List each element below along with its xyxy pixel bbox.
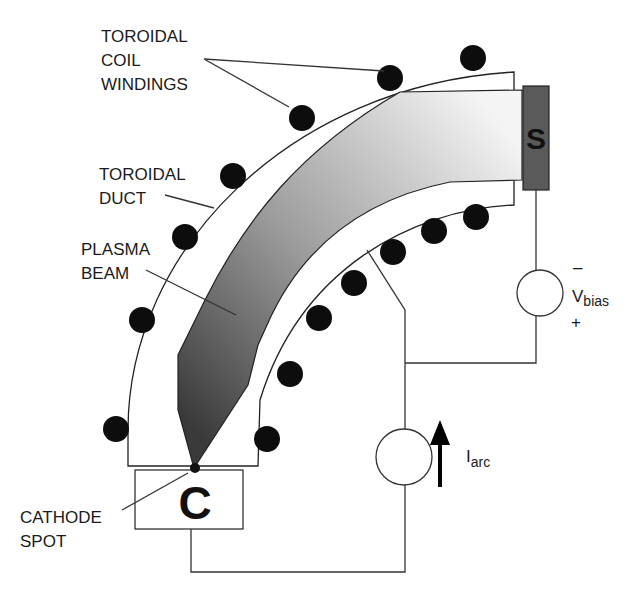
arc-current-arrow-icon bbox=[430, 420, 450, 487]
coil-winding bbox=[460, 45, 486, 71]
label-coil-windings-3: WINDINGS bbox=[101, 75, 188, 94]
coil-winding bbox=[254, 426, 280, 452]
bias-voltage-source bbox=[517, 270, 563, 316]
arc-current-source bbox=[376, 429, 432, 485]
coil-winding bbox=[377, 65, 403, 91]
bias-plus-sign: + bbox=[571, 313, 581, 332]
coil-winding bbox=[220, 163, 246, 189]
label-duct-1: TOROIDAL bbox=[99, 165, 186, 184]
coil-winding bbox=[289, 105, 315, 131]
coil-winding bbox=[103, 416, 129, 442]
coil-winding bbox=[463, 204, 489, 230]
callout-coil-windings: TOROIDAL COIL WINDINGS bbox=[101, 27, 384, 107]
label-duct-2: DUCT bbox=[99, 189, 146, 208]
coil-winding bbox=[341, 270, 367, 296]
coil-winding bbox=[421, 218, 447, 244]
cathode-spot bbox=[190, 463, 200, 473]
label-cathode-spot-1: CATHODE bbox=[20, 508, 102, 527]
label-plasma-beam-1: PLASMA bbox=[81, 240, 151, 259]
substrate-letter: S bbox=[526, 122, 546, 155]
bias-label: Vbias bbox=[572, 287, 609, 309]
bias-minus-sign: – bbox=[573, 258, 583, 277]
label-coil-windings-2: COIL bbox=[101, 51, 141, 70]
coil-winding bbox=[277, 361, 303, 387]
label-coil-windings-1: TOROIDAL bbox=[101, 27, 188, 46]
coil-winding bbox=[172, 224, 198, 250]
cathode-letter: C bbox=[178, 477, 211, 529]
callout-duct: TOROIDAL DUCT bbox=[99, 165, 214, 208]
coil-winding bbox=[306, 305, 332, 331]
label-cathode-spot-2: SPOT bbox=[20, 532, 66, 551]
label-plasma-beam-2: BEAM bbox=[81, 264, 129, 283]
diagram-canvas: S C – Vbias + Iar bbox=[0, 0, 629, 590]
coil-winding bbox=[380, 239, 406, 265]
arc-current-label: Iarc bbox=[466, 447, 490, 470]
coil-winding bbox=[129, 307, 155, 333]
